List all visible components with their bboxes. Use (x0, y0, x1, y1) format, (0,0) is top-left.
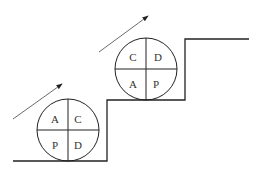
quadrant-label: D (154, 51, 162, 63)
quadrant-label: A (51, 113, 59, 125)
quadrant-label: P (153, 78, 159, 90)
upper-cycle-circle: C D A P (115, 38, 177, 100)
quadrant-label: P (52, 139, 58, 151)
quadrant-label: D (74, 139, 82, 151)
pdca-diagram: A C P D C D A P (0, 0, 259, 173)
quadrant-label: C (129, 51, 136, 63)
diagram-canvas: A C P D C D A P (0, 0, 259, 173)
lower-cycle-circle: A C P D (37, 99, 99, 161)
quadrant-label: A (129, 78, 137, 90)
arrow-upper (99, 16, 148, 52)
quadrant-label: C (74, 113, 81, 125)
